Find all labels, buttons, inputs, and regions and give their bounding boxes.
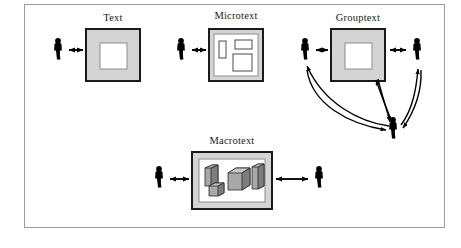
diagram-root: Text Microtext Grouptext Macrotext [0,0,461,248]
curved-arrow-bottom-to-box [376,80,392,122]
panel-label-macrotext: Macrotext [195,135,269,146]
panel-label-grouptext: Grouptext [321,12,395,23]
microtext-shape-2 [235,40,252,49]
panel-macrotext [155,152,323,209]
microtext-shape-3 [233,54,252,71]
macrotext-block-4 [252,164,264,189]
diagram-canvas [0,0,461,248]
macrotext-block-2 [209,183,224,196]
curved-arrow-right-to-bottom [403,70,421,128]
panel-text [54,29,140,81]
panel-label-text: Text [86,12,140,23]
actor-grouptext-left [301,38,309,60]
macrotext-block-3 [228,168,250,190]
panel-label-microtext: Microtext [199,10,273,21]
actor-grouptext-right [413,38,421,60]
panel-grouptext [301,29,421,139]
actor-macrotext-left [155,166,163,188]
grouptext-inner-shape [345,43,372,69]
actor-microtext-left [177,38,185,60]
actor-text-left [54,38,62,60]
text-inner-shape [100,43,127,69]
panel-microtext [177,29,263,81]
microtext-shape-1 [219,41,226,58]
actor-macrotext-right [315,166,323,188]
actor-grouptext-bottom [389,117,397,139]
